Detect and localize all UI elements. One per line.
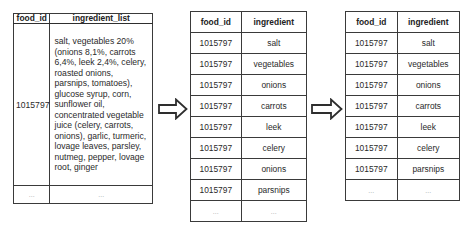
cell-ingredient: parsnips (241, 180, 306, 201)
cell-ingredient: vegetables (397, 54, 459, 75)
column-header-food-id: food_id (14, 14, 50, 24)
deduplicated-table: food_id ingredient 1015797salt 1015797ve… (345, 11, 460, 201)
cell-food-id: 1015797 (191, 138, 242, 159)
cell-food-id: 1015797 (191, 117, 242, 138)
cell-ingredient: onions (397, 75, 459, 96)
cell-food-id: 1015797 (346, 138, 398, 159)
table-row: 1015797leek (346, 117, 460, 138)
table-row: 1015797carrots (346, 96, 460, 117)
cell-ingredient: onions (241, 75, 306, 96)
cell-ingredient: carrots (397, 96, 459, 117)
table-row: 1015797onions (191, 75, 307, 96)
cell-ellipsis: ... (14, 186, 50, 204)
table-row: 1015797salt (346, 33, 460, 54)
table-header-row: food_id ingredient (346, 12, 460, 33)
table-header-row: food_id ingredient_list (14, 14, 153, 24)
cell-food-id: 1015797 (346, 96, 398, 117)
cell-food-id: 1015797 (191, 180, 242, 201)
cell-ellipsis: ... (346, 180, 398, 201)
cell-ingredient: salt (397, 33, 459, 54)
table-row-ellipsis: ... ... (14, 186, 153, 204)
cell-ellipsis: ... (191, 201, 242, 222)
column-header-ingredient: ingredient (397, 12, 459, 33)
table-row: 1015797vegetables (346, 54, 460, 75)
table-row-ellipsis: ...... (346, 180, 460, 201)
cell-food-id: 1015797 (191, 159, 242, 180)
cell-ingredient: celery (397, 138, 459, 159)
table-row: 1015797salt (191, 33, 307, 54)
table-row: 1015797leek (191, 117, 307, 138)
cell-ellipsis: ... (241, 201, 306, 222)
cell-ingredient-list: salt, vegetables 20% (onions 8,1%, carro… (50, 24, 153, 186)
cell-food-id: 1015797 (191, 96, 242, 117)
cell-ingredient: celery (241, 138, 306, 159)
table-row: 1015797celery (346, 138, 460, 159)
cell-ingredient: leek (397, 117, 459, 138)
cell-ingredient: onions (241, 159, 306, 180)
cell-ingredient: parsnips (397, 159, 459, 180)
cell-ellipsis: ... (50, 186, 153, 204)
table-row: 1015797onions (191, 159, 307, 180)
table-row: 1015797parsnips (346, 159, 460, 180)
right-arrow-icon (158, 98, 188, 120)
cell-ingredient: salt (241, 33, 306, 54)
cell-food-id: 1015797 (346, 117, 398, 138)
source-table: food_id ingredient_list 1015797 salt, ve… (13, 13, 153, 204)
column-header-ingredient: ingredient (241, 12, 306, 33)
cell-ingredient: carrots (241, 96, 306, 117)
table-header-row: food_id ingredient (191, 12, 307, 33)
table-row: 1015797 salt, vegetables 20% (onions 8,1… (14, 24, 153, 186)
cell-ingredient: vegetables (241, 54, 306, 75)
cell-food-id: 1015797 (346, 54, 398, 75)
table-row: 1015797parsnips (191, 180, 307, 201)
cell-food-id: 1015797 (191, 33, 242, 54)
column-header-food-id: food_id (346, 12, 398, 33)
table-row: 1015797vegetables (191, 54, 307, 75)
table-row-ellipsis: ...... (191, 201, 307, 222)
cell-food-id: 1015797 (346, 159, 398, 180)
cell-food-id: 1015797 (346, 75, 398, 96)
cell-food-id: 1015797 (191, 54, 242, 75)
table-row: 1015797celery (191, 138, 307, 159)
column-header-ingredient-list: ingredient_list (50, 14, 153, 24)
cell-food-id: 1015797 (191, 75, 242, 96)
table-row: 1015797carrots (191, 96, 307, 117)
cell-food-id: 1015797 (14, 24, 50, 186)
cell-ingredient: leek (241, 117, 306, 138)
cell-food-id: 1015797 (346, 33, 398, 54)
column-header-food-id: food_id (191, 12, 242, 33)
right-arrow-icon (311, 98, 343, 120)
cell-ellipsis: ... (397, 180, 459, 201)
table-row: 1015797onions (346, 75, 460, 96)
split-table: food_id ingredient 1015797salt 1015797ve… (190, 11, 307, 222)
